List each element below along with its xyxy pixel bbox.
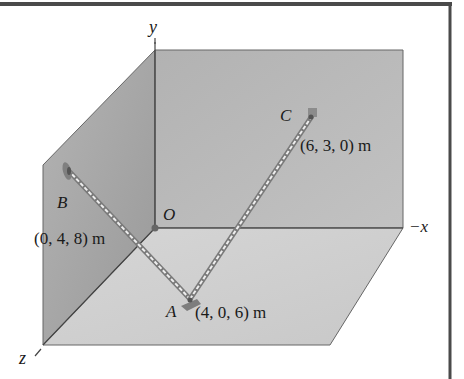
point-c-coords: (6, 3, 0) m [300, 137, 371, 154]
origin-label: O [163, 206, 175, 223]
point-c-label: C [280, 107, 291, 124]
figure: y −x z O C (6, 3, 0) m B (0, 4, 8) m A (… [0, 0, 464, 379]
z-axis-label: z [19, 349, 26, 367]
y-axis-label: y [149, 18, 157, 36]
point-b-coords: (0, 4, 8) m [34, 230, 105, 247]
origin-point [152, 225, 159, 232]
z-axis-tick [35, 349, 41, 356]
diagram-canvas [0, 0, 464, 379]
point-a-label: A [166, 303, 176, 320]
x-axis-label: −x [409, 218, 428, 235]
point-a-coords: (4, 0, 6) m [195, 304, 266, 321]
point-b-label: B [57, 194, 67, 211]
